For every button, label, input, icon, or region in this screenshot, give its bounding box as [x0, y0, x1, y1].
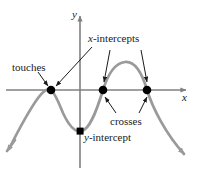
label-x-intercepts-rest: -intercepts	[93, 32, 139, 44]
leader-crosses-1	[105, 97, 116, 113]
y-axis-label: y	[72, 9, 77, 20]
marker-x-intercept-cross-1	[99, 86, 108, 95]
label-x-intercepts: x-intercepts	[88, 33, 139, 44]
x-axis-label: x	[182, 92, 187, 103]
marker-x-intercept-touch	[47, 86, 56, 95]
label-touches: touches	[12, 62, 46, 73]
label-crosses: crosses	[110, 116, 142, 127]
graph-canvas	[0, 0, 198, 174]
leader-touches	[38, 72, 48, 86]
label-y-intercept-rest: -intercept	[89, 131, 131, 143]
curve-left-arrow	[7, 140, 15, 151]
leader-xintercept-1	[56, 47, 92, 86]
leader-crosses-2	[139, 97, 147, 113]
marker-x-intercept-cross-2	[143, 86, 152, 95]
marker-y-intercept	[77, 128, 84, 135]
label-y-intercept: y-intercept	[84, 132, 131, 143]
polynomial-graph-figure: touches x-intercepts crosses y-intercept…	[0, 0, 198, 174]
